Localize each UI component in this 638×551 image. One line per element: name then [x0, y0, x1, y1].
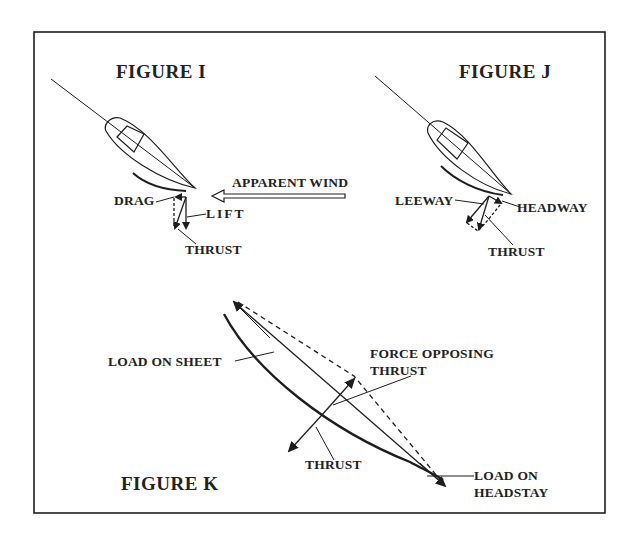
figure-i-vectors [156, 197, 206, 244]
figure-j-thrust-label: THRUST [488, 245, 545, 259]
thrust-leader [316, 427, 334, 460]
lift-leader [187, 214, 206, 217]
headway-label: HEADWAY [517, 201, 588, 215]
load-on-sheet-arrow [234, 302, 270, 338]
leeway-leader [455, 200, 484, 204]
drag-label: DRAG [114, 194, 155, 208]
load-on-headstay-line2: HEADSTAY [474, 484, 548, 501]
figure-i-boat [51, 79, 195, 191]
load-on-headstay-arrow [420, 463, 445, 486]
figure-frame [34, 32, 605, 513]
load-on-sheet-leader [235, 352, 274, 361]
load-on-headstay-line1: LOAD ON [474, 467, 548, 484]
drag-leader [156, 197, 174, 202]
load-on-sheet-label: LOAD ON SHEET [108, 355, 222, 369]
thrust-leader [485, 215, 513, 245]
figure-i-title: FIGURE I [116, 62, 206, 81]
apparent-wind-label: APPARENT WIND [232, 176, 348, 190]
dashed-force-lines [238, 302, 442, 482]
figure-j-title: FIGURE J [459, 62, 551, 81]
thrust-vector [175, 197, 186, 228]
lift-label: LIFT [206, 207, 246, 221]
force-opposing-line1: FORCE OPPOSING [370, 345, 494, 362]
thrust-vector [289, 416, 321, 451]
figure-j-boat [375, 76, 511, 195]
leeway-label: LEEWAY [395, 194, 453, 208]
figure-k-thrust-label: THRUST [305, 458, 362, 472]
force-opposing-thrust-label: FORCE OPPOSING THRUST [370, 345, 494, 379]
heading-line [51, 79, 195, 188]
heading-line [375, 76, 511, 194]
figure-k-title: FIGURE K [121, 474, 218, 493]
apparent-wind-arrow [212, 190, 345, 202]
force-opposing-leader [333, 376, 411, 405]
figure-i-thrust-label: THRUST [185, 243, 242, 257]
dashed-parallelogram [467, 205, 500, 231]
headway-vector [489, 196, 501, 203]
sail-curve [441, 166, 503, 195]
force-opposing-thrust-vector [321, 379, 354, 416]
figure-j-vectors [455, 196, 520, 245]
force-opposing-line2: THRUST [370, 362, 494, 379]
load-on-headstay-label: LOAD ON HEADSTAY [474, 467, 548, 501]
